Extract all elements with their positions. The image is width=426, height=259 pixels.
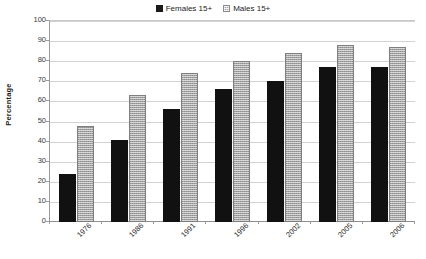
chart-legend: Females 15+ Males 15+ (0, 2, 426, 15)
x-tick-mark-1991 (205, 221, 206, 224)
bar-males-1976[interactable] (77, 126, 94, 222)
bar-chart: Females 15+ Males 15+ Percentage 1009080… (0, 0, 426, 259)
y-tick-label-10: 10 (20, 197, 46, 205)
x-tick-mark-2002 (310, 221, 311, 224)
x-tick-mark-2005 (362, 221, 363, 224)
x-tick-mark-2006 (414, 221, 415, 224)
legend-entry-females[interactable]: Females 15+ (156, 4, 212, 13)
y-tick-label-70: 70 (20, 76, 46, 84)
bar-females-2006[interactable] (371, 67, 388, 222)
bar-females-1986[interactable] (111, 140, 128, 222)
bar-females-1976[interactable] (59, 174, 76, 222)
bar-females-2002[interactable] (267, 81, 284, 222)
bar-females-1996[interactable] (215, 89, 232, 222)
legend-label-males: Males 15+ (233, 4, 270, 13)
y-tick-label-30: 30 (20, 157, 46, 165)
bar-males-2005[interactable] (337, 45, 354, 222)
bar-males-1996[interactable] (233, 61, 250, 222)
bar-females-1991[interactable] (163, 109, 180, 222)
legend-swatch-males-icon (223, 5, 230, 12)
y-tick-label-60: 60 (20, 96, 46, 104)
x-axis-ticks: 1976198619911996200220052006 (49, 221, 414, 259)
legend-swatch-females-icon (156, 5, 163, 12)
bar-males-2002[interactable] (285, 53, 302, 222)
y-tick-label-40: 40 (20, 137, 46, 145)
legend-label-females: Females 15+ (166, 4, 212, 13)
bar-males-1986[interactable] (129, 95, 146, 222)
y-tick-label-90: 90 (20, 36, 46, 44)
y-axis-ticks: 1009080706050403020100 (20, 0, 46, 259)
plot-area (49, 20, 415, 222)
bar-females-2005[interactable] (319, 67, 336, 222)
bar-series-container (50, 21, 415, 222)
bar-males-2006[interactable] (389, 47, 406, 222)
y-tick-label-0: 0 (20, 217, 46, 225)
x-tick-mark-1986 (153, 221, 154, 224)
y-axis-title: Percentage (4, 73, 13, 137)
y-tick-label-100: 100 (20, 16, 46, 24)
y-tick-label-20: 20 (20, 177, 46, 185)
y-axis-title-wrap: Percentage (0, 0, 16, 259)
y-tick-label-80: 80 (20, 56, 46, 64)
legend-entry-males[interactable]: Males 15+ (223, 4, 270, 13)
x-tick-mark-1976 (101, 221, 102, 224)
x-tick-mark-1996 (258, 221, 259, 224)
x-tick-mark-origin (49, 221, 50, 224)
bar-males-1991[interactable] (181, 73, 198, 222)
y-tick-label-50: 50 (20, 117, 46, 125)
